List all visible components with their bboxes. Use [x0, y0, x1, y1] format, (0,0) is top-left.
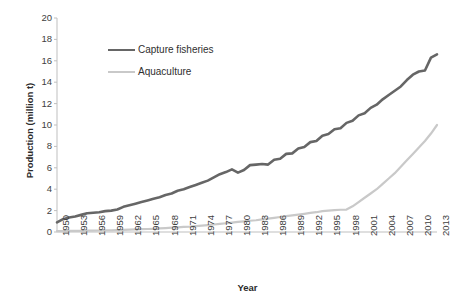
y-axis-title: Production (million t)	[24, 56, 35, 206]
x-axis-tick-label: 1971	[188, 215, 198, 236]
x-axis-tick-label: 2010	[423, 215, 433, 236]
legend-swatch-icon	[108, 49, 135, 51]
x-axis-tick-label: 1965	[151, 215, 161, 236]
x-axis-tick-label: 1950	[61, 215, 71, 236]
x-axis-tick-label: 1968	[170, 215, 180, 236]
y-axis-tick-label: 18	[26, 34, 52, 44]
x-axis-tick-label: 1995	[332, 215, 342, 236]
x-axis-tick-label: 2001	[369, 215, 379, 236]
legend-item-aquaculture: Aquaculture	[108, 66, 191, 77]
x-axis-tick-label: 1980	[242, 215, 252, 236]
x-axis-tick-label: 1989	[296, 215, 306, 236]
y-axis-tick-label: 0	[26, 227, 52, 237]
x-axis-tick-label: 1983	[260, 215, 270, 236]
y-axis-tick-label: 20	[26, 13, 52, 23]
y-axis-tick-label: 2	[26, 206, 52, 216]
x-axis-tick-label: 1953	[79, 215, 89, 236]
x-axis-tick-label: 1956	[97, 215, 107, 236]
x-axis-tick-label: 2013	[441, 215, 451, 236]
x-axis-tick-label: 1992	[314, 215, 324, 236]
series-line-capture-fisheries	[57, 54, 437, 222]
legend-label: Aquaculture	[138, 66, 191, 77]
x-axis-tick-label: 1959	[115, 215, 125, 236]
legend-swatch-icon	[108, 71, 135, 73]
legend-label: Capture fisheries	[138, 44, 214, 55]
x-axis-tick-label: 2007	[405, 215, 415, 236]
legend-item-capture-fisheries: Capture fisheries	[108, 44, 214, 55]
x-axis-tick-label: 1986	[278, 215, 288, 236]
x-axis-tick-label: 2004	[387, 215, 397, 236]
chart-series-group	[57, 54, 437, 231]
x-axis-title: Year	[55, 282, 440, 293]
x-axis-tick-label: 1974	[206, 215, 216, 236]
x-axis-tick-label: 1962	[133, 215, 143, 236]
x-axis-tick-label: 1977	[224, 215, 234, 236]
x-axis-tick-label: 1998	[351, 215, 361, 236]
